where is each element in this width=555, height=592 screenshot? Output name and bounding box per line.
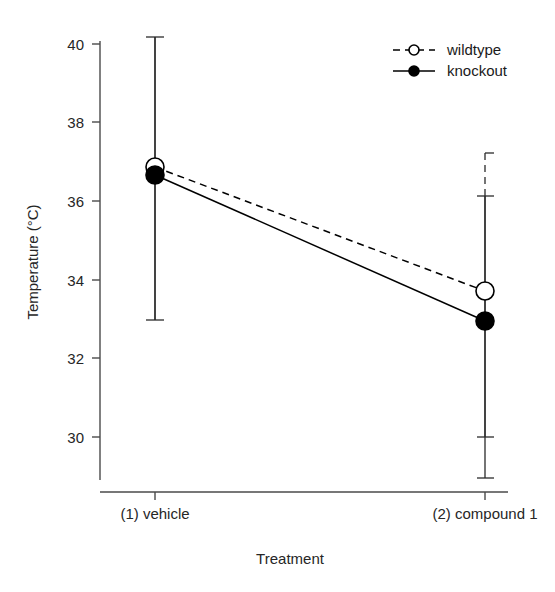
chart-legend: wildtype knockout: [393, 41, 508, 79]
y-axis: 40 38 36 34 32 30 Temperature (°C): [24, 36, 100, 480]
y-tick-label-38: 38: [67, 114, 84, 131]
y-tick-label-32: 32: [67, 350, 84, 367]
error-bars-wildtype: [146, 37, 494, 437]
marker-knockout-compound1: [476, 312, 494, 330]
legend-marker-knockout: [409, 66, 419, 76]
legend-label-knockout: knockout: [447, 62, 508, 79]
series-markers: [146, 158, 494, 330]
chart-canvas: 40 38 36 34 32 30 Temperature (°C) (1) v…: [0, 0, 555, 592]
x-axis-title: Treatment: [256, 550, 325, 567]
y-tick-label-40: 40: [67, 36, 84, 53]
legend-label-wildtype: wildtype: [446, 41, 501, 58]
legend-entry-wildtype: wildtype: [393, 41, 501, 58]
error-bars-knockout: [155, 37, 494, 478]
temperature-treatment-figure: factors. 40 38 36 34 32 30 Temperature (…: [0, 0, 555, 592]
x-axis: (1) vehicle (2) compound 1 Treatment: [100, 492, 538, 567]
series-lines: [155, 167, 485, 321]
x-tick-label-vehicle: (1) vehicle: [120, 505, 189, 522]
y-axis-title: Temperature (°C): [24, 204, 41, 319]
marker-wildtype-compound1: [476, 282, 494, 300]
series-line-knockout: [155, 175, 485, 321]
x-tick-label-compound1: (2) compound 1: [432, 505, 537, 522]
legend-entry-knockout: knockout: [393, 62, 508, 79]
legend-marker-wildtype: [409, 45, 419, 55]
y-tick-label-36: 36: [67, 193, 84, 210]
text-clip-mask: [0, 0, 555, 8]
y-tick-label-30: 30: [67, 429, 84, 446]
marker-knockout-vehicle: [146, 166, 164, 184]
series-line-wildtype: [155, 167, 485, 291]
y-tick-label-34: 34: [67, 272, 84, 289]
